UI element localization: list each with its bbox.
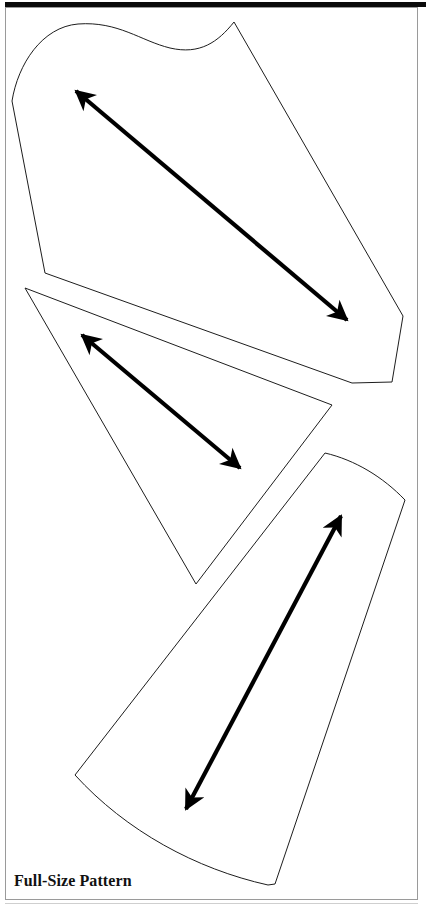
- pattern-drawing: [0, 0, 428, 909]
- pattern-figure: Full-Size Pattern: [0, 0, 428, 909]
- figure-caption: Full-Size Pattern: [14, 872, 132, 890]
